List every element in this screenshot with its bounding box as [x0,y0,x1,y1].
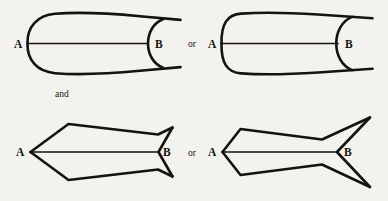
angular-right-label-a: A [208,146,217,158]
curved-left-label-a: A [14,38,23,50]
curved-right-label-a: A [208,38,217,50]
connector-and: and [55,89,69,99]
figure-curved-left: A B [14,13,181,74]
angular-left-label-b: B [163,146,171,158]
connector-or-top: or [188,39,197,49]
muller-lyer-illusion-plate: A B or A B and [0,0,388,201]
illusion-figure-canvas: A B or A B and [0,0,388,201]
curved-right-label-b: B [345,38,353,50]
connector-or-bottom: or [188,148,197,158]
figure-angular-left: A B [16,124,173,180]
angular-left-upper-fin [31,124,173,152]
curved-left-label-b: B [155,38,163,50]
angular-left-label-a: A [16,146,25,158]
angular-right-notch-b [337,118,370,188]
angular-right-label-b: B [344,146,352,158]
angular-left-lower-fin [31,152,173,180]
figure-angular-right: A B [208,118,370,188]
figure-curved-right: A B [208,13,373,75]
